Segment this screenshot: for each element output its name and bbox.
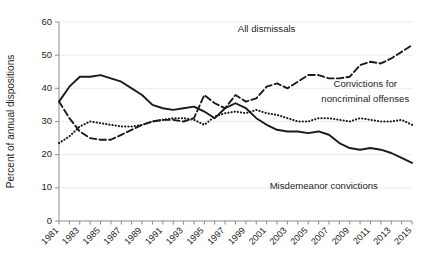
y-tick-label: 30 — [41, 115, 52, 126]
y-tick-label: 10 — [41, 181, 52, 192]
y-tick-label: 20 — [41, 148, 52, 159]
y-axis-title: Percent of annual dispositions — [5, 55, 16, 188]
y-tick-label: 50 — [41, 49, 52, 60]
series-label: All dismissals — [238, 23, 296, 34]
chart-canvas: 0102030405060 19811983198519871989199119… — [0, 0, 430, 270]
y-tick-label: 40 — [41, 82, 52, 93]
series-label: noncriminal offenses — [321, 93, 409, 104]
y-tick-label: 0 — [47, 215, 52, 226]
line-chart: 0102030405060 19811983198519871989199119… — [0, 0, 430, 270]
series-label: Convictions for — [334, 78, 398, 89]
y-tick-label: 60 — [41, 16, 52, 27]
series-label: Misdemeanor convictions — [270, 180, 378, 191]
